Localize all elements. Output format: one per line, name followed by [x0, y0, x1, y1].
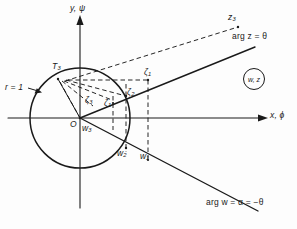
plane-tag-badge: w, z — [243, 68, 265, 90]
point-label-zeta1: ζ₁ — [104, 99, 111, 108]
point-label-T3: T₃ — [52, 62, 61, 71]
figure-canvas: y, ψ x, ϕ O r = 1 arg z = θ arg w = α = … — [0, 0, 297, 229]
point-label-w1: w₁ — [140, 152, 149, 161]
chord-T3-origin — [58, 79, 80, 118]
dashed-construction-group — [60, 27, 238, 160]
ray-arg-w-label: arg w = α = −θ — [206, 198, 264, 207]
x-axis-label: x, ϕ — [270, 111, 285, 120]
point-label-w2: w₂ — [117, 149, 127, 158]
point-label-zeta2: ζ₂ — [127, 88, 135, 97]
axis-group — [8, 22, 262, 208]
point-label-z3-far: z₃ — [228, 13, 236, 22]
radius-pointer-arrowhead — [35, 88, 43, 93]
y-axis-arrowhead — [76, 15, 83, 25]
radius-label: r = 1 — [5, 83, 23, 92]
dashed-T3-to-z3far — [65, 27, 238, 81]
point-label-zeta3: ζ₃ — [85, 96, 93, 105]
plane-tag-text: w, z — [248, 76, 260, 83]
x-axis-arrowhead — [258, 114, 268, 121]
ray-arg-z-label: arg z = θ — [232, 32, 267, 41]
point-label-w3: w₃ — [82, 124, 92, 133]
y-axis-label: y, ψ — [70, 4, 85, 13]
point-label-zeta1-upper: ζ₁ — [144, 68, 151, 77]
origin-label: O — [70, 120, 77, 129]
